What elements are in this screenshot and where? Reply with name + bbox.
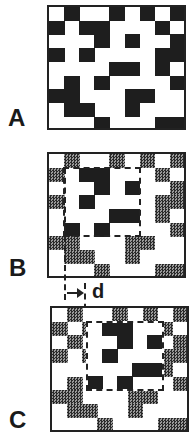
black-cell: [155, 117, 171, 130]
gray-cell: [155, 209, 171, 223]
black-cell: [147, 363, 163, 377]
gray-cell: [173, 335, 189, 349]
gray-cell: [170, 195, 186, 209]
black-cell: [49, 21, 65, 35]
gray-cell: [67, 390, 83, 404]
dashed-window-b: [63, 167, 141, 238]
black-cell: [170, 48, 186, 62]
black-cell: [49, 48, 65, 62]
gray-cell: [173, 308, 189, 322]
gray-cell: [170, 154, 186, 168]
black-cell: [170, 34, 186, 48]
gray-cell: [49, 236, 65, 250]
black-cell: [170, 117, 186, 130]
gray-cell: [82, 404, 98, 418]
gray-cell: [170, 223, 186, 237]
gray-cell: [155, 264, 171, 278]
black-cell: [102, 322, 118, 336]
black-cell: [170, 7, 186, 21]
black-cell: [94, 21, 110, 35]
gray-cell: [79, 250, 95, 264]
gray-cell: [64, 250, 80, 264]
black-cell: [109, 62, 125, 76]
displacement-label-d: d: [92, 281, 104, 301]
black-cell: [140, 89, 156, 103]
black-cell: [155, 21, 171, 35]
gray-cell: [67, 404, 83, 418]
black-cell: [94, 76, 110, 90]
black-cell: [64, 103, 80, 117]
gray-cell: [155, 168, 171, 182]
panel-b-windowed-pattern: [47, 152, 186, 278]
black-cell: [170, 76, 186, 90]
black-cell: [155, 48, 171, 62]
gray-cell: [67, 377, 83, 391]
black-cell: [140, 7, 156, 21]
black-cell: [117, 322, 133, 336]
black-cell: [94, 117, 110, 130]
black-cell: [125, 89, 141, 103]
gray-cell: [170, 181, 186, 195]
black-cell: [64, 89, 80, 103]
gray-cell: [125, 236, 141, 250]
gray-cell: [67, 335, 83, 349]
gray-cell: [97, 418, 113, 432]
black-cell: [64, 76, 80, 90]
gray-cell: [143, 390, 159, 404]
panel-c-shifted-pattern: [50, 306, 189, 432]
black-cell: [109, 7, 125, 21]
gray-cell: [158, 418, 174, 432]
gray-cell: [173, 349, 189, 363]
black-cell: [117, 335, 133, 349]
black-cell: [49, 89, 65, 103]
gray-cell: [170, 264, 186, 278]
black-cell: [132, 363, 148, 377]
black-cell: [79, 103, 95, 117]
gray-cell: [67, 308, 83, 322]
black-cell: [87, 376, 103, 390]
black-cell: [117, 376, 133, 390]
dashed-window-c-shifted: [86, 321, 164, 392]
gray-cell: [173, 377, 189, 391]
gray-cell: [128, 404, 144, 418]
black-cell: [64, 7, 80, 21]
gray-cell: [140, 236, 156, 250]
gray-cell: [52, 349, 68, 363]
gray-cell: [155, 195, 171, 209]
black-cell: [94, 34, 110, 48]
gray-cell: [52, 390, 68, 404]
panel-label-a: A: [8, 106, 25, 130]
black-cell: [147, 335, 163, 349]
panel-label-b: B: [9, 256, 26, 280]
black-cell: [125, 103, 141, 117]
black-cell: [125, 62, 141, 76]
panel-label-c: C: [9, 408, 26, 432]
gray-cell: [128, 390, 144, 404]
panel-a-random-pattern: [47, 5, 186, 130]
black-cell: [155, 62, 171, 76]
black-cell: [102, 349, 118, 363]
gray-cell: [173, 418, 189, 432]
black-cell: [125, 34, 141, 48]
black-cell: [79, 21, 95, 35]
reference-dashed-line: [64, 168, 66, 300]
gray-cell: [64, 236, 80, 250]
arrowhead-icon: [77, 288, 84, 298]
gray-cell: [125, 250, 141, 264]
gray-cell: [140, 154, 156, 168]
gray-cell: [94, 264, 110, 278]
black-cell: [79, 48, 95, 62]
gray-cell: [52, 322, 68, 336]
